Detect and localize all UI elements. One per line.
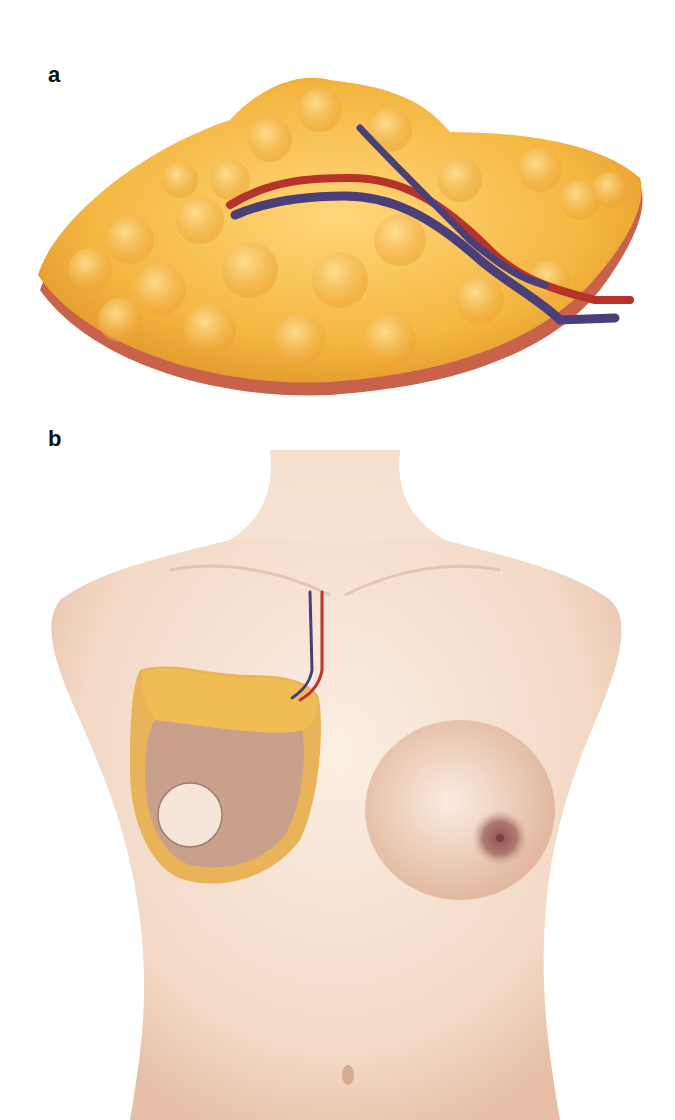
nipple [496,834,504,842]
torso-illustration [0,420,675,1120]
nipple-reconstruction-site [158,783,222,847]
panel-b: b [0,420,675,1120]
neck-shadow [230,450,445,540]
navel [342,1065,354,1085]
natural-breast [365,720,555,900]
panel-a: a [0,0,675,420]
fat-flap-illustration [0,0,675,420]
